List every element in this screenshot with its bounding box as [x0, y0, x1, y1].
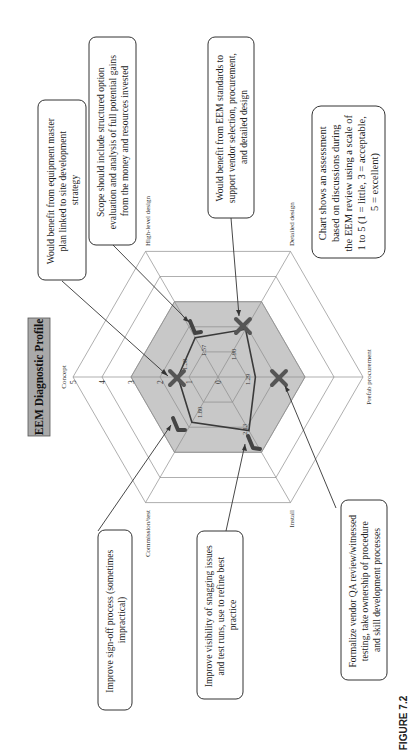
value-detailed: 1.90 — [230, 349, 237, 360]
note-concept-line-1: Would benefit from equipment master — [45, 117, 56, 264]
axis-label-concept: Concept — [60, 365, 68, 388]
note-concept: Would benefit from equipment master plan… — [38, 100, 86, 280]
axis-label-detailed-design: Detailed design — [288, 202, 296, 246]
note-legend-line-4: 1 to 5 (1 = little, 3 = acceptable, — [356, 116, 368, 250]
note-prefab-line-2: testing, take ownership of procedure — [359, 521, 370, 661]
value-prefab: 1.29 — [244, 374, 251, 385]
value-concept: 1.38 — [181, 359, 188, 370]
axis-label-prefab-procurement: Prefab procurement — [365, 349, 373, 404]
note-high-level-line-3: from the money and resources invested — [119, 66, 130, 217]
ring-label-5: 5 — [69, 380, 78, 384]
axis-label-commission-test: Commission/test — [144, 510, 152, 557]
note-detailed-design: Would benefit from EEM standards to supp… — [208, 37, 254, 218]
note-prefab-line-3: and skill development processes — [371, 528, 382, 652]
note-legend-line-3: the EEM review using a scale of — [343, 115, 354, 252]
note-detailed-line-3: and detailed design — [238, 90, 249, 164]
note-install-line-2: and test runs, use to refine best — [215, 557, 226, 676]
note-high-level-line-1: Scope should include structured option — [95, 67, 106, 217]
radar-grid — [73, 251, 363, 502]
ring-label-0: 0 — [214, 380, 223, 384]
note-concept-line-2: plan linked to site development — [57, 131, 68, 252]
note-prefab-procurement: Formalize vendor QA review/witnessed tes… — [341, 500, 387, 680]
value-commission: 1.80 — [196, 407, 203, 418]
chart-title-box: EEM Diagnostic Profile — [28, 318, 50, 436]
ring-label-4: 4 — [98, 380, 107, 384]
note-scale-legend: Chart shows an assessment based on discu… — [312, 106, 385, 258]
note-install-line-1: Improve visibility of snagging issues — [203, 545, 214, 687]
figure-caption: FIGURE 7.2 — [398, 695, 409, 750]
note-install: Improve visibility of snagging issues an… — [197, 531, 243, 699]
note-concept-line-3: strategy — [69, 175, 80, 206]
ring-label-3: 3 — [127, 380, 136, 384]
axis-label-install: Install — [288, 510, 296, 528]
ring-label-2: 2 — [156, 380, 165, 384]
note-commission-line-1: Improve sign-off process (sometimes — [104, 549, 116, 692]
axis-label-high-level-design: High-level design — [144, 196, 152, 246]
note-commission-test: Improve sign-off process (sometimes impr… — [98, 530, 132, 710]
svg-text:Scope should include structure: Scope should include structured option e… — [95, 53, 130, 230]
svg-text:Formalize vendor QA review/wit: Formalize vendor QA review/witnessed tes… — [347, 512, 382, 667]
value-high-level: 1.57 — [200, 344, 207, 356]
note-legend-line-2: based on discussions during — [330, 124, 341, 242]
chart-title: EEM Diagnostic Profile — [33, 319, 46, 436]
note-high-level-design: Scope should include structured option e… — [89, 37, 136, 245]
value-install: 2.13 — [241, 424, 248, 435]
note-commission-line-2: impractical) — [116, 597, 128, 643]
eem-diagnostic-figure: 0 1 2 3 4 5 1.38 1.57 1.90 1.29 2.13 1.8… — [0, 0, 412, 756]
note-high-level-line-2: evaluation and analysis of full potentia… — [107, 55, 118, 230]
note-detailed-line-2: support vendor selection, procurement, — [226, 53, 237, 203]
ring-label-1: 1 — [185, 380, 194, 384]
note-install-line-3: practice — [227, 600, 238, 630]
note-legend-line-1: Chart shows an assessment — [317, 126, 328, 240]
note-detailed-line-1: Would benefit from EEM standards to — [214, 55, 225, 202]
note-prefab-line-1: Formalize vendor QA review/witnessed — [347, 515, 358, 668]
note-legend-line-5: 5 = excellent) — [369, 153, 381, 211]
